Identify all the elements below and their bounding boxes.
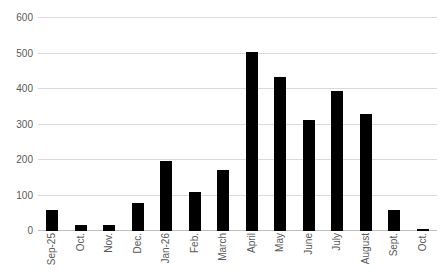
x-axis-tick: July xyxy=(323,233,352,280)
x-axis-tick: Oct. xyxy=(409,233,438,280)
x-axis-tick-label: May xyxy=(275,233,285,252)
x-axis-tick-label: Jan-26 xyxy=(161,233,171,264)
bar xyxy=(417,229,429,231)
y-axis-tick-label: 600 xyxy=(3,13,33,23)
bar xyxy=(189,192,201,231)
y-axis-tick-label: 500 xyxy=(3,49,33,59)
y-axis-tick-label: 400 xyxy=(3,84,33,94)
y-axis-tick-label: 200 xyxy=(3,155,33,165)
y-axis: 0100200300400500600 xyxy=(0,0,33,280)
x-axis-tick: August xyxy=(352,233,381,280)
x-axis-tick-label: July xyxy=(332,233,342,251)
bar xyxy=(303,120,315,231)
x-axis-tick: June xyxy=(295,233,324,280)
x-axis-tick-label: August xyxy=(361,233,371,264)
bar xyxy=(388,210,400,231)
bar xyxy=(360,114,372,231)
x-axis: Sep-25Oct.Nov.Dec.Jan-26Feb.MarchAprilMa… xyxy=(38,233,437,280)
x-axis-tick: Sept. xyxy=(380,233,409,280)
x-axis-tick: Sep-25 xyxy=(38,233,67,280)
x-axis-tick: Feb. xyxy=(181,233,210,280)
plot-area xyxy=(38,18,437,231)
x-axis-tick: March xyxy=(209,233,238,280)
bar xyxy=(160,161,172,231)
x-axis-tick: Oct. xyxy=(67,233,96,280)
bar xyxy=(331,91,343,231)
y-axis-tick-label: 300 xyxy=(3,120,33,130)
x-axis-tick: Nov. xyxy=(95,233,124,280)
bar xyxy=(46,210,58,231)
x-axis-tick: Dec. xyxy=(124,233,153,280)
x-axis-tick-label: March xyxy=(218,233,228,261)
bar xyxy=(246,52,258,231)
x-axis-tick: Jan-26 xyxy=(152,233,181,280)
x-axis-tick-label: Dec. xyxy=(133,233,143,254)
bar xyxy=(217,170,229,231)
x-axis-tick-label: April xyxy=(247,233,257,253)
bar xyxy=(274,77,286,231)
bars-series xyxy=(38,18,437,231)
x-axis-tick: April xyxy=(238,233,267,280)
y-axis-tick-label: 100 xyxy=(3,191,33,201)
bar xyxy=(75,225,87,231)
bar xyxy=(103,225,115,231)
x-axis-tick-label: Sep-25 xyxy=(47,233,57,265)
x-axis-tick: May xyxy=(266,233,295,280)
y-axis-tick-label: 0 xyxy=(3,226,33,236)
x-axis-tick-label: Oct. xyxy=(76,233,86,251)
bar-chart: 0100200300400500600 Sep-25Oct.Nov.Dec.Ja… xyxy=(0,0,447,280)
x-axis-tick-label: June xyxy=(304,233,314,255)
x-axis-tick-label: Feb. xyxy=(190,233,200,253)
x-axis-tick-label: Oct. xyxy=(418,233,428,251)
bar xyxy=(132,203,144,231)
x-axis-tick-label: Nov. xyxy=(104,233,114,253)
x-axis-tick-label: Sept. xyxy=(389,233,399,256)
